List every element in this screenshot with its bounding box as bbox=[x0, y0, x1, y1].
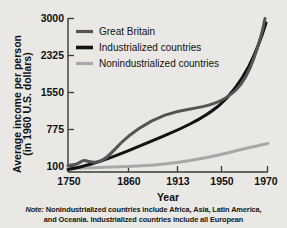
x-tick-label-1950: 1950 bbox=[210, 175, 234, 187]
y-tick-label-2325: 2325 bbox=[41, 49, 65, 61]
chart-figure: Average income per person (in 1960 U.S. … bbox=[0, 0, 287, 228]
note-text-1: Nonindustrialized countries include Afri… bbox=[46, 205, 262, 214]
chart-legend: Great Britain Industrialized countries N… bbox=[76, 26, 219, 69]
y-tick-label-775: 775 bbox=[46, 123, 64, 135]
chart-note: Note: Nonindustrialized countries includ… bbox=[0, 205, 287, 224]
note-line-1: Note: Nonindustrialized countries includ… bbox=[0, 205, 287, 215]
series-line-nonindustrialized-countries bbox=[68, 144, 268, 169]
x-axis-tick-labels: 1750 1860 1913 1950 1970 bbox=[57, 175, 278, 187]
y-tick-label-3000: 3000 bbox=[41, 12, 65, 24]
x-axis-title: Year bbox=[157, 191, 179, 203]
legend-label-industrialized-countries: Industrialized countries bbox=[99, 42, 201, 53]
note-prefix: Note: bbox=[25, 205, 43, 214]
x-tick-label-1970: 1970 bbox=[254, 175, 278, 187]
legend-item-great-britain[interactable]: Great Britain bbox=[76, 26, 155, 37]
series-line-great-britain bbox=[68, 19, 265, 166]
y-tick-label-100: 100 bbox=[46, 160, 64, 172]
income-per-person-line-chart: Average income per person (in 1960 U.S. … bbox=[0, 0, 287, 228]
y-axis-title: Average income per person (in 1960 U.S. … bbox=[11, 35, 33, 173]
legend-label-nonindustrialized-countries: Nonindustrialized countries bbox=[99, 58, 219, 69]
x-tick-label-1913: 1913 bbox=[166, 175, 190, 187]
legend-item-nonindustrialized-countries[interactable]: Nonindustrialized countries bbox=[76, 58, 219, 69]
note-line-2: and Oceania. Industrialized countries in… bbox=[0, 215, 287, 225]
y-axis-title-line-2: (in 1960 U.S. dollars) bbox=[21, 52, 33, 155]
legend-label-great-britain: Great Britain bbox=[99, 26, 155, 37]
x-tick-label-1860: 1860 bbox=[117, 175, 141, 187]
y-tick-label-1550: 1550 bbox=[41, 86, 65, 98]
legend-item-industrialized-countries[interactable]: Industrialized countries bbox=[76, 42, 201, 53]
x-tick-label-1750: 1750 bbox=[57, 175, 81, 187]
y-axis-tick-labels: 3000 2325 1550 775 100 bbox=[41, 12, 65, 172]
